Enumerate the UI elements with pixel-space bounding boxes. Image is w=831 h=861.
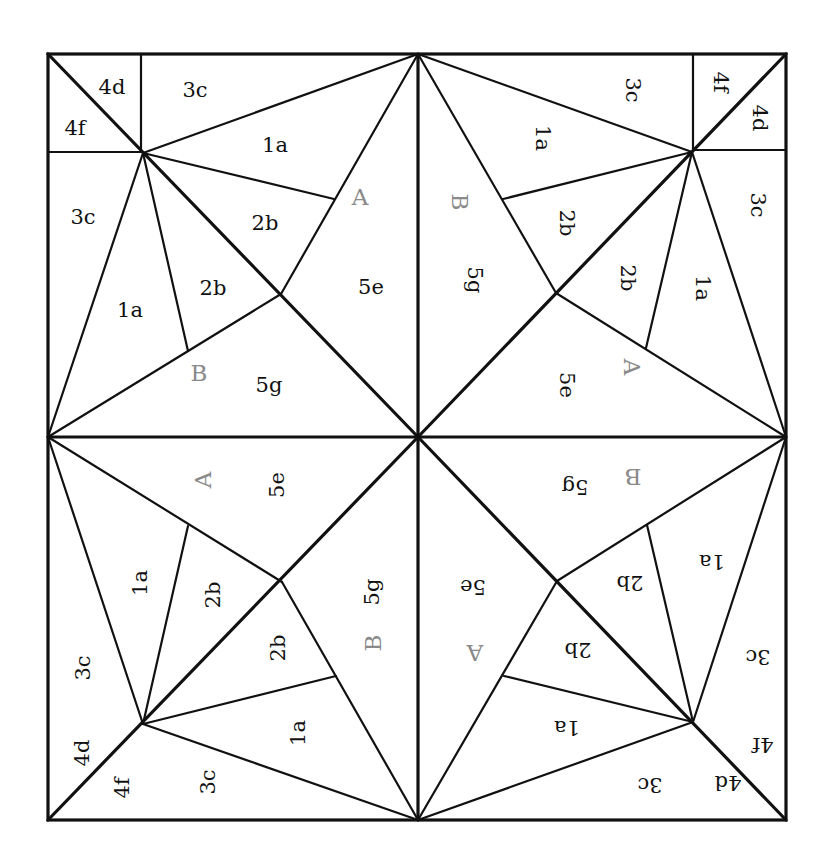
- tl-line: [48, 294, 281, 437]
- piece-label: 5e: [460, 575, 486, 599]
- quadrant-bottom-left-lines: [48, 437, 418, 820]
- quadrant-top-left-lines: [48, 54, 418, 437]
- tl-line: [143, 153, 188, 351]
- piece-label: 1a: [128, 570, 152, 596]
- piece-label: 2b: [252, 211, 279, 235]
- piece-label: 4d: [99, 75, 126, 99]
- piece-label: 3c: [182, 78, 207, 102]
- piece-label: 1a: [531, 125, 555, 151]
- piece-label: 2b: [200, 276, 227, 300]
- quilt-pattern-diagram: 4d4f3c1aA3c2b2b5e1aB5g3c4f4d1a3cB2b5g2b1…: [0, 0, 831, 861]
- piece-label: 4d: [748, 105, 772, 132]
- piece-label: 3c: [621, 77, 645, 102]
- br-line: [693, 437, 786, 722]
- reference-point-label: B: [447, 194, 473, 211]
- br-line: [557, 437, 786, 581]
- piece-label: 4f: [709, 71, 733, 94]
- quadrant-bottom-right-lines: [418, 437, 786, 820]
- reference-point-label: A: [190, 471, 216, 489]
- bl-line: [282, 582, 418, 820]
- tr-line: [503, 152, 692, 199]
- piece-label: 5e: [265, 472, 289, 498]
- piece-label: 3c: [70, 205, 95, 229]
- tr-diagonal: [418, 54, 786, 437]
- br-line: [647, 525, 693, 722]
- bl-line: [48, 437, 282, 582]
- piece-label: 3c: [745, 645, 770, 669]
- piece-label: 1a: [691, 275, 715, 301]
- piece-label: 3c: [637, 773, 662, 797]
- pattern-lines: [48, 54, 786, 820]
- piece-label: 2b: [266, 635, 290, 662]
- br-line: [418, 581, 557, 820]
- piece-label: 4f: [64, 116, 87, 140]
- reference-point-label: A: [619, 358, 645, 376]
- reference-point-label: B: [191, 360, 208, 386]
- tr-line: [646, 152, 692, 348]
- piece-label: 1a: [117, 298, 143, 322]
- tl-line: [48, 153, 143, 437]
- bl-diagonal: [48, 437, 418, 820]
- piece-label: 2b: [555, 210, 579, 237]
- tr-line: [556, 293, 786, 437]
- tl-diagonal: [48, 54, 418, 437]
- piece-label: 4f: [110, 775, 134, 798]
- piece-label: 5g: [562, 475, 589, 499]
- piece-label: 1a: [554, 716, 580, 740]
- piece-label: 2b: [617, 571, 644, 595]
- piece-label: 2b: [201, 582, 225, 609]
- tr-line: [418, 54, 556, 293]
- piece-label: 3c: [71, 655, 95, 680]
- labels-bottom-right: B5g1a2b5e2bA3c1a4f3c4d: [460, 464, 773, 797]
- reference-point-label: B: [360, 635, 386, 652]
- bl-line: [143, 676, 336, 724]
- piece-label: 1a: [286, 720, 310, 746]
- piece-label: 1a: [262, 133, 288, 157]
- piece-label: 4f: [750, 733, 773, 757]
- piece-label: 2b: [565, 638, 592, 662]
- br-line: [504, 676, 693, 722]
- pattern-svg: 4d4f3c1aA3c2b2b5e1aB5g3c4f4d1a3cB2b5g2b1…: [0, 0, 831, 861]
- piece-label: 4d: [715, 771, 742, 795]
- piece-label: 5e: [358, 275, 384, 299]
- bl-line: [143, 724, 418, 820]
- reference-point-label: A: [466, 640, 484, 666]
- reference-point-label: B: [625, 464, 642, 490]
- piece-label: 3c: [196, 769, 220, 794]
- tl-line: [281, 54, 418, 294]
- br-diagonal: [418, 437, 786, 820]
- piece-label: 5g: [360, 579, 384, 606]
- piece-label: 1a: [699, 550, 725, 574]
- piece-label: 5g: [256, 373, 283, 397]
- piece-label: 2b: [616, 265, 640, 292]
- quadrant-top-right-lines: [418, 54, 786, 437]
- bl-line: [143, 526, 188, 724]
- piece-label: 5e: [555, 372, 579, 398]
- piece-label: 4d: [70, 740, 94, 767]
- piece-label: 3c: [746, 192, 770, 217]
- reference-point-label: A: [351, 184, 369, 210]
- tl-line: [143, 153, 334, 199]
- piece-label: 5g: [463, 267, 487, 294]
